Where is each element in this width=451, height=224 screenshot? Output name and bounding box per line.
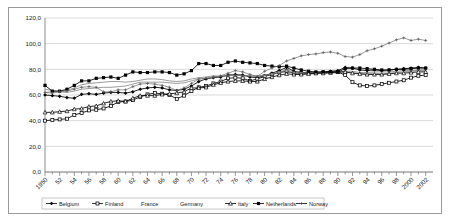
x-axis-tick-label: 82 (273, 175, 283, 185)
legend-item-norway: Norway (296, 201, 328, 207)
data-point-marker (256, 62, 259, 65)
data-point-marker (292, 66, 295, 69)
data-point-marker (182, 72, 185, 75)
data-point-marker (65, 96, 69, 100)
x-axis-tick-label: 60 (112, 175, 122, 185)
data-point-marker (329, 70, 332, 73)
data-point-marker (366, 85, 369, 88)
data-point-marker (417, 74, 420, 77)
data-point-marker (96, 202, 99, 205)
legend-label: Netherlands (266, 201, 296, 207)
data-point-marker (168, 86, 171, 89)
data-point-marker (380, 68, 383, 71)
data-point-marker (351, 66, 354, 69)
y-axis-tick-label: 80,0 (29, 66, 42, 73)
data-point-marker (344, 67, 347, 70)
data-point-marker (285, 59, 288, 62)
data-point-marker (395, 80, 398, 83)
data-point-marker (94, 93, 98, 97)
x-axis-tick-label: 92 (346, 175, 356, 185)
data-point-marker (44, 119, 47, 122)
data-point-marker (394, 71, 398, 75)
data-point-marker (204, 62, 207, 65)
x-axis-tick-label: 2002 (415, 175, 430, 190)
legend-item-netherlands: Netherlands (253, 201, 296, 207)
y-axis-tick-label: 100,0 (26, 40, 42, 47)
data-point-marker (300, 202, 303, 205)
data-point-marker (387, 68, 390, 71)
data-point-marker (190, 90, 193, 93)
data-point-marker (358, 66, 361, 69)
y-axis-tick-label: 60,0 (29, 91, 42, 98)
x-axis-tick-label: 98 (390, 175, 400, 185)
data-point-marker (87, 85, 90, 88)
data-point-marker (116, 99, 120, 103)
data-point-marker (227, 72, 230, 75)
x-axis-tick-label: 94 (361, 175, 371, 185)
data-point-marker (380, 73, 384, 77)
data-point-marker (94, 104, 98, 108)
data-point-marker (139, 71, 142, 74)
data-point-marker (395, 38, 398, 41)
data-point-marker (395, 68, 398, 71)
data-point-marker (241, 61, 244, 64)
data-point-marker (139, 83, 142, 86)
data-point-marker (131, 70, 134, 73)
legend-label: Germany (180, 201, 203, 207)
legend-item-france: France (141, 201, 158, 207)
data-point-marker (373, 84, 376, 87)
data-point-marker (234, 59, 237, 62)
data-point-marker (109, 104, 112, 107)
data-point-marker (402, 68, 405, 71)
legend-item-finland: Finland (92, 201, 123, 207)
data-point-marker (109, 100, 113, 104)
data-point-marker (183, 94, 186, 97)
data-point-marker (314, 52, 317, 55)
data-point-marker (73, 113, 76, 116)
data-point-marker (124, 74, 127, 77)
x-axis-tick-label: 70 (185, 175, 195, 185)
legend-label: France (141, 201, 158, 207)
data-point-marker (307, 53, 310, 56)
data-point-marker (102, 76, 105, 79)
data-point-marker (153, 85, 157, 89)
data-point-marker (424, 39, 427, 42)
data-point-marker (322, 51, 325, 54)
data-point-marker (358, 84, 361, 87)
data-point-marker (153, 83, 156, 86)
data-point-marker (138, 94, 142, 98)
data-point-marker (351, 81, 354, 84)
x-axis-tick-label: 54 (68, 175, 78, 185)
x-axis-tick-label: 66 (156, 175, 166, 185)
data-point-marker (387, 72, 391, 76)
data-point-marker (124, 88, 127, 91)
data-point-marker (80, 79, 83, 82)
x-axis-tick-label: 56 (83, 175, 93, 185)
data-point-marker (146, 86, 150, 90)
x-axis-tick-label: 84 (288, 175, 298, 185)
data-point-marker (51, 119, 54, 122)
line-chart: 0,020,040,060,080,0100,0120,0 1950525456… (9, 8, 441, 213)
data-point-marker (314, 70, 317, 73)
data-point-marker (73, 84, 76, 87)
data-series-layer (43, 36, 427, 122)
y-axis-tick-labels: 0,020,040,060,080,0100,0120,0 (26, 14, 42, 175)
data-point-marker (336, 70, 339, 73)
data-point-marker (410, 39, 413, 42)
data-point-marker (197, 62, 200, 65)
data-point-marker (366, 49, 369, 52)
data-point-marker (43, 110, 47, 114)
data-point-marker (388, 81, 391, 84)
legend-item-germany: Germany (180, 201, 203, 207)
data-point-marker (233, 73, 237, 77)
data-point-marker (402, 36, 405, 39)
data-point-marker (417, 38, 420, 41)
data-point-marker (50, 110, 54, 114)
x-axis-tick-label: 62 (127, 175, 137, 185)
data-point-marker (344, 55, 347, 58)
x-axis-tick-label: 2000 (400, 175, 415, 190)
data-point-marker (380, 83, 383, 86)
y-axis-tick-label: 120,0 (26, 14, 42, 21)
data-point-marker (219, 64, 222, 67)
data-point-marker (95, 77, 98, 80)
